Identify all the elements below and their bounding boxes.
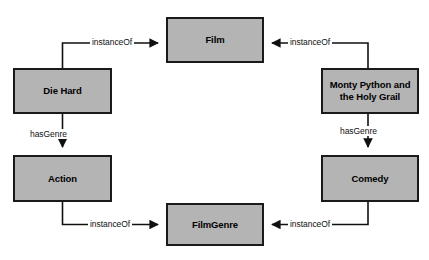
edge-label-monty-hasgenre-comedy: hasGenre bbox=[338, 126, 379, 136]
edge-label-action-instanceof-filmgenre: instanceOf bbox=[88, 219, 132, 229]
node-comedy[interactable]: Comedy bbox=[321, 155, 419, 202]
node-film-genre-label: FilmGenre bbox=[189, 219, 241, 231]
edge-label-monty-instanceof-film: instanceOf bbox=[288, 37, 332, 47]
node-die-hard-label: Die Hard bbox=[40, 85, 84, 97]
node-die-hard[interactable]: Die Hard bbox=[13, 68, 112, 114]
node-monty-python-and-the-holy-grail[interactable]: Monty Python and the Holy Grail bbox=[321, 68, 419, 114]
node-action[interactable]: Action bbox=[13, 155, 112, 202]
node-comedy-label: Comedy bbox=[349, 173, 392, 185]
node-film-label: Film bbox=[202, 34, 227, 46]
diagram-canvas: Film Die Hard Monty Python and the Holy … bbox=[0, 0, 429, 260]
node-film[interactable]: Film bbox=[166, 17, 264, 63]
node-action-label: Action bbox=[45, 173, 80, 185]
node-monty-label-line2: the Holy Grail bbox=[327, 91, 414, 103]
edge-label-die-hard-instanceof-film: instanceOf bbox=[90, 37, 134, 47]
node-monty-label-line1: Monty Python and bbox=[327, 79, 414, 91]
edge-label-die-hard-hasgenre-action: hasGenre bbox=[28, 129, 69, 139]
node-monty-label: Monty Python and the Holy Grail bbox=[324, 79, 417, 103]
node-film-genre[interactable]: FilmGenre bbox=[166, 203, 264, 246]
edge-label-comedy-instanceof-filmgenre: instanceOf bbox=[288, 219, 332, 229]
